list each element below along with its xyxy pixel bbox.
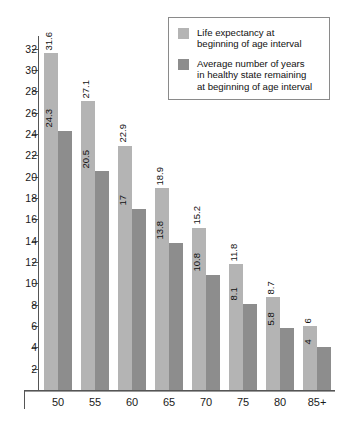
bar — [243, 304, 257, 390]
bar — [317, 347, 331, 390]
y-axis-tick-label: 28 — [11, 86, 37, 97]
x-axis-tick-label: 50 — [38, 397, 78, 408]
bar-group: 22.917 — [118, 36, 146, 390]
bar-group: 31.624.3 — [44, 36, 72, 390]
legend-entry-label: Life expectancy at beginning of age inte… — [197, 27, 302, 50]
bar-value-label: 8.1 — [229, 287, 239, 300]
y-axis-tick-label: 18 — [11, 193, 37, 204]
bar-value-label: 17 — [118, 195, 128, 206]
x-axis-tick-label: 70 — [186, 397, 226, 408]
y-axis-tick-label: 30 — [11, 65, 37, 76]
bar-value-label: 6 — [303, 318, 313, 323]
bar-value-label: 20.5 — [81, 150, 91, 169]
bar-value-label: 31.6 — [44, 32, 54, 51]
bar — [44, 53, 58, 390]
bar-value-label: 18.9 — [155, 167, 165, 186]
legend-entry-life-expectancy: Life expectancy at beginning of age inte… — [178, 27, 302, 50]
x-axis-shadow — [24, 391, 335, 392]
bar-value-label: 4 — [303, 339, 313, 344]
bar — [169, 243, 183, 390]
bar — [58, 131, 72, 390]
bar-value-label: 11.8 — [229, 243, 239, 261]
bar — [118, 146, 132, 390]
x-axis-tick-label: 60 — [112, 397, 152, 408]
y-axis-tick-label: 10 — [11, 278, 37, 289]
y-axis-tick-label: 2 — [11, 364, 37, 375]
light-gray-swatch-icon — [178, 28, 189, 39]
bar — [132, 209, 146, 390]
bar — [155, 188, 169, 390]
bar-value-label: 15.2 — [192, 206, 202, 225]
y-axis-tick-label: 12 — [11, 257, 37, 268]
bar-value-label: 13.8 — [155, 221, 165, 240]
dark-gray-swatch-icon — [178, 59, 189, 70]
bar — [95, 171, 109, 390]
y-axis-tick-label: 16 — [11, 214, 37, 225]
bar-value-label: 24.3 — [44, 109, 54, 128]
y-axis-tick-label: 8 — [11, 300, 37, 311]
bar — [206, 275, 220, 390]
bar-chart: 2468101214161820222426283032 31.624.327.… — [0, 0, 339, 426]
y-axis-tick-label: 22 — [11, 150, 37, 161]
y-axis-tick-label: 32 — [11, 44, 37, 55]
x-axis-tick-label: 75 — [223, 397, 263, 408]
y-axis-tick-label: 26 — [11, 108, 37, 119]
x-axis-tick-label: 85+ — [297, 397, 337, 408]
y-axis-tick-label: 24 — [11, 129, 37, 140]
bar-value-label: 8.7 — [266, 281, 276, 294]
bar-value-label: 27.1 — [81, 80, 91, 99]
legend-box: Life expectancy at beginning of age inte… — [168, 17, 330, 100]
bar-value-label: 22.9 — [118, 124, 128, 143]
bar-group: 27.120.5 — [81, 36, 109, 390]
bar — [229, 264, 243, 390]
legend-entry-label: Average number of years in healthy state… — [197, 58, 312, 92]
x-axis-tick-label: 65 — [149, 397, 189, 408]
bar-value-label: 10.8 — [192, 253, 202, 272]
y-axis-tick-label: 20 — [11, 172, 37, 183]
x-axis-tick-label: 80 — [260, 397, 300, 408]
y-axis-tick-label: 14 — [11, 236, 37, 247]
y-axis-tick-label: 4 — [11, 342, 37, 353]
bar — [303, 326, 317, 390]
legend-entry-healthy-years: Average number of years in healthy state… — [178, 58, 312, 92]
y-axis-stub — [24, 391, 25, 409]
bar — [266, 297, 280, 390]
y-axis-tick-label: 6 — [11, 321, 37, 332]
bar — [81, 101, 95, 390]
bar — [280, 328, 294, 390]
bar-value-label: 5.8 — [266, 312, 276, 325]
x-axis-tick-label: 55 — [75, 397, 115, 408]
